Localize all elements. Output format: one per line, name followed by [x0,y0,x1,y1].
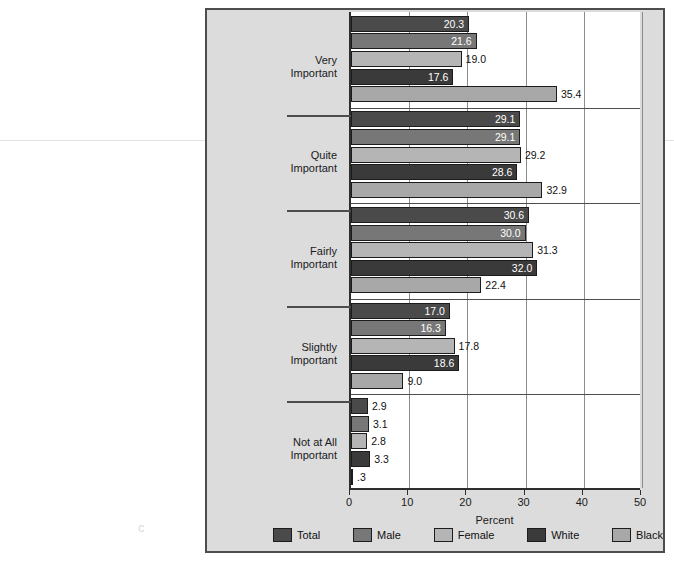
bar-value-label: 3.3 [374,451,389,467]
bar-value-label: 19.0 [466,51,486,67]
gridline-40 [584,12,585,488]
scan-artifact-smudge: c [138,520,152,536]
bar [351,398,368,414]
x-axis-tick [524,490,525,495]
bar-value-label: 35.4 [561,86,581,102]
bar-value-label: 2.8 [371,433,386,449]
legend-swatch [527,528,546,542]
x-axis-tick-label: 20 [450,496,480,508]
bar [351,338,455,354]
bar-value-label: 30.6 [351,207,524,223]
category-label-line: Important [217,162,337,175]
x-axis-tick-label: 0 [334,496,364,508]
x-axis-tick-label: 40 [567,496,597,508]
bar-value-label: 29.1 [351,111,515,127]
bar-value-label: 20.3 [351,16,464,32]
legend-item: Female [434,528,495,542]
category-label: Not at AllImportant [217,436,337,462]
bar-value-label: 30.0 [351,225,521,241]
gridline-50 [642,12,643,488]
legend-swatch [612,528,631,542]
legend-label: Male [377,529,401,541]
bar-value-label: 17.6 [351,69,448,85]
category-label-line: Quite [217,149,337,162]
group-separator-tail [287,306,351,308]
group-separator-tail [287,115,351,117]
bar [351,373,403,389]
x-axis-tick [465,490,466,495]
bar-value-label: 22.4 [485,277,505,293]
bar-value-label: 29.2 [525,147,545,163]
bar-value-label: 32.0 [351,260,532,276]
bar-value-label: 16.3 [351,320,441,336]
chart-frame: 20.321.619.017.635.429.129.129.228.632.9… [205,8,665,553]
bar [351,182,542,198]
category-label: VeryImportant [217,54,337,80]
bar [351,147,521,163]
legend-swatch [273,528,292,542]
category-label-line: Very [217,54,337,67]
bar-value-label: 28.6 [351,164,512,180]
bar-value-label: 3.1 [373,416,388,432]
category-label: SlightlyImportant [217,341,337,367]
bar [351,469,353,485]
x-axis-tick [640,490,641,495]
legend-item: White [527,528,579,542]
legend-label: White [551,529,579,541]
category-label-line: Not at All [217,436,337,449]
legend-label: Black [636,529,663,541]
legend-item: Total [273,528,320,542]
category-label-line: Important [217,449,337,462]
bar-value-label: 17.0 [351,303,445,319]
x-axis-tick [349,490,350,495]
bar [351,433,367,449]
bar-value-label: 18.6 [351,355,454,371]
bar [351,86,557,102]
legend-item: Male [353,528,401,542]
x-axis-tick-label: 50 [625,496,655,508]
bar-value-label: 17.8 [459,338,479,354]
bar-value-label: 29.1 [351,129,515,145]
category-label-line: Slightly [217,341,337,354]
legend-label: Total [297,529,320,541]
category-label: QuiteImportant [217,149,337,175]
x-axis-tick [407,490,408,495]
bar-value-label: 21.6 [351,33,472,49]
legend-item: Black [612,528,663,542]
bar-value-label: 2.9 [372,398,387,414]
legend-label: Female [458,529,495,541]
group-separator [351,108,640,109]
bar-value-label: 31.3 [537,242,557,258]
group-separator [351,394,640,395]
category-label-line: Important [217,258,337,271]
x-axis-tick-label: 10 [392,496,422,508]
bar-value-label: .3 [357,469,366,485]
legend-swatch [353,528,372,542]
bar [351,277,481,293]
bar-value-label: 9.0 [407,373,422,389]
category-label: FairlyImportant [217,245,337,271]
category-label-line: Fairly [217,245,337,258]
bar [351,242,533,258]
plot-area: 20.321.619.017.635.429.129.129.228.632.9… [349,12,640,490]
bar [351,416,369,432]
group-separator [351,299,640,300]
chart-legend: TotalMaleFemaleWhiteBlack [273,522,663,548]
bar-value-label: 32.9 [546,182,566,198]
group-separator [351,203,640,204]
bar [351,51,462,67]
x-axis-tick-label: 30 [509,496,539,508]
bar [351,451,370,467]
category-label-line: Important [217,67,337,80]
category-label-line: Important [217,354,337,367]
legend-swatch [434,528,453,542]
group-separator-tail [287,210,351,212]
x-axis-tick [582,490,583,495]
group-separator-tail [287,401,351,403]
